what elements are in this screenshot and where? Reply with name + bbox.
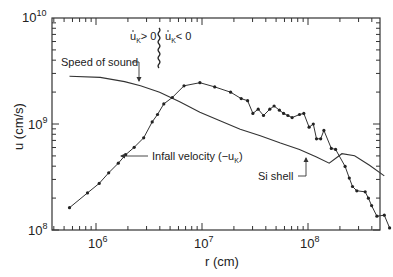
data-point (156, 113, 159, 116)
data-point (319, 137, 322, 140)
sonic-point-divider (158, 28, 160, 68)
data-point (383, 214, 386, 217)
y-tick-label-1e9: 109 (28, 115, 47, 132)
data-point (278, 109, 281, 112)
data-point (375, 215, 378, 218)
si-shell-label: Si shell (258, 170, 293, 182)
data-point (213, 85, 216, 88)
data-point (298, 113, 301, 116)
data-point (107, 171, 110, 174)
data-point (240, 97, 243, 100)
data-point (370, 204, 373, 207)
data-point (68, 206, 71, 209)
data-point (348, 177, 351, 180)
arrow-head-icon (137, 77, 142, 82)
data-point (312, 122, 315, 125)
y-tick-label-1e10: 1010 (22, 8, 46, 25)
data-point (308, 126, 311, 129)
data-point (229, 91, 232, 94)
data-point (330, 147, 333, 150)
data-point (286, 114, 289, 117)
x-tick-label-1e7: 107 (194, 234, 213, 251)
data-point (246, 99, 249, 102)
data-point (367, 197, 370, 200)
data-point (171, 96, 174, 99)
axis-ticks (52, 18, 380, 230)
data-point (162, 102, 165, 105)
data-point (142, 136, 145, 139)
udot-positive-label: uK> 0 (130, 30, 156, 44)
x-axis-title: r (cm) (205, 254, 239, 269)
udot-dot (167, 30, 169, 32)
data-point (251, 112, 254, 115)
data-point (117, 162, 120, 165)
udot-dot (132, 30, 134, 32)
data-point (315, 137, 318, 140)
arrow-head-icon (304, 157, 309, 162)
data-point (302, 112, 305, 115)
data-point (268, 108, 271, 111)
x-tick-label-1e6: 106 (88, 234, 107, 251)
x-tick-label-1e8: 108 (300, 234, 319, 251)
data-point (257, 108, 260, 111)
plot-frame (52, 18, 380, 230)
data-point (98, 182, 101, 185)
infall-velocity-label: Infall velocity (−uK) (152, 150, 243, 164)
chart: 1010 109 108 106 107 108 r (cm) u (cm/s)… (0, 0, 393, 277)
data-point (388, 226, 391, 229)
speed-of-sound-label: Speed of sound (61, 56, 138, 68)
data-point (334, 148, 337, 151)
y-tick-label-1e8: 108 (28, 221, 47, 238)
data-point (198, 81, 201, 84)
udot-negative-label: uK< 0 (165, 30, 191, 44)
data-point (355, 189, 358, 192)
data-point (364, 190, 367, 193)
data-point (282, 112, 285, 115)
data-point (262, 114, 265, 117)
y-axis-title: u (cm/s) (11, 103, 26, 150)
data-point (322, 129, 325, 132)
data-point (273, 104, 276, 107)
data-point (86, 191, 89, 194)
data-point (133, 146, 136, 149)
data-point (151, 120, 154, 123)
data-point (351, 185, 354, 188)
data-point (182, 84, 185, 87)
data-point (291, 116, 294, 119)
data-point (344, 165, 347, 168)
